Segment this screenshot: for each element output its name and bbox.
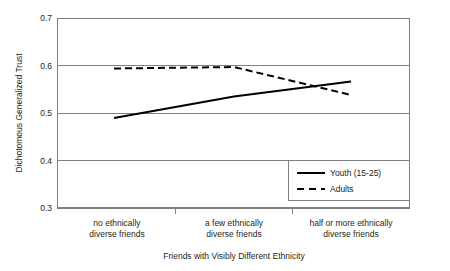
x-category-label-1-line-1: diverse friends xyxy=(206,229,261,239)
x-category-label-0-line-1: diverse friends xyxy=(89,229,144,239)
line-chart: Dichotomous Generalized Trust 0.3 0.4 0.… xyxy=(0,0,450,271)
x-axis-title: Friends with Visibly Different Ethnicity xyxy=(163,251,305,261)
y-tick-label-4: 0.7 xyxy=(40,13,52,23)
y-tick-label-2: 0.5 xyxy=(40,108,52,118)
y-tick-label-0: 0.3 xyxy=(40,203,52,213)
legend: Youth (15-25) Adults xyxy=(289,161,410,201)
legend-label-youth: Youth (15-25) xyxy=(330,168,381,178)
legend-border xyxy=(289,161,410,201)
legend-item-youth: Youth (15-25) xyxy=(297,168,381,178)
x-category-label-2-line-1: diverse friends xyxy=(323,229,378,239)
y-axis-title: Dichotomous Generalized Trust xyxy=(14,53,24,173)
chart-container: Dichotomous Generalized Trust 0.3 0.4 0.… xyxy=(0,0,450,271)
legend-item-adults: Adults xyxy=(297,184,354,194)
y-tick-label-1: 0.4 xyxy=(40,156,52,166)
y-tick-label-3: 0.6 xyxy=(40,61,52,71)
series-line-adults xyxy=(114,67,351,95)
legend-label-adults: Adults xyxy=(330,184,354,194)
x-category-label-0-line-0: no ethnically xyxy=(93,218,141,228)
x-category-label-1-line-0: a few ethnically xyxy=(205,218,264,228)
x-category-label-2-line-0: half or more ethnically xyxy=(309,218,393,228)
